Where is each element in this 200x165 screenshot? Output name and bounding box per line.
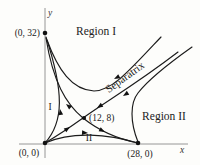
label-point-28-0: (28, 0) [127,149,152,160]
point-0-32 [43,31,48,36]
arrow-icon [65,102,73,109]
arrow-icon [122,91,130,98]
point-saddle-12-8 [82,116,86,120]
arrow-icon [99,127,106,134]
point-28-0 [136,141,141,146]
separatrix-upper-branch [83,52,178,118]
point-origin [43,141,48,146]
y-axis-label: y [47,8,53,18]
label-region-2: Region II [142,110,186,123]
phase-portrait-figure: y x (0, 32) (0, 0) (28, 0) (12, 8) Regio… [0,0,200,165]
label-trajectory-I: I [48,102,51,112]
label-region-1: Region I [76,25,116,38]
x-axis-label: x [179,145,185,155]
label-point-0-32: (0, 32) [15,28,40,39]
region1-trajectory [47,37,161,91]
label-point-origin: (0, 0) [19,148,40,159]
label-point-saddle: (12, 8) [89,113,114,124]
separatrix-lower-branch [45,118,83,143]
label-trajectory-II: II [86,133,92,143]
phase-portrait-canvas: y x (0, 32) (0, 0) (28, 0) (12, 8) Regio… [0,0,200,165]
